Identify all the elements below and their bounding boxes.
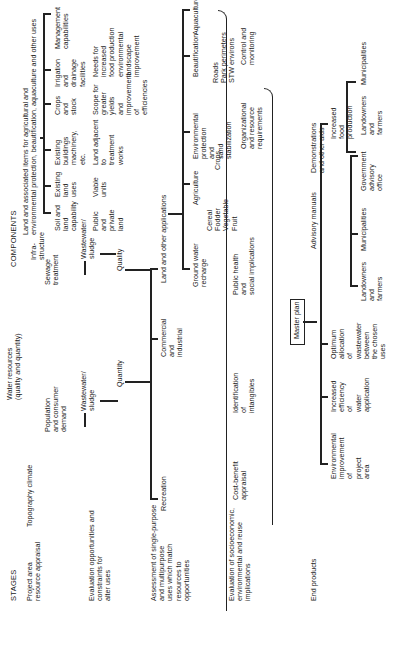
- agriculture: Agriculture: [192, 171, 200, 205]
- sub-viable-units: Viable units: [92, 177, 108, 197]
- components-bracket-line: [43, 14, 45, 214]
- stage-end-products: End products: [310, 559, 318, 601]
- tick: [43, 186, 51, 188]
- components-header: COMPONENTS: [10, 210, 18, 267]
- tick: [350, 234, 358, 236]
- public-health: Public health and social implications: [232, 237, 257, 295]
- tick: [43, 150, 51, 152]
- cost-benefit-appraisal: Cost-benefit appraisal: [232, 461, 248, 500]
- optimum-allocation: Optimum allocation of wastewater between…: [330, 323, 387, 359]
- tick: [320, 464, 328, 466]
- tick: [43, 104, 51, 106]
- quantity-label: Quantity: [116, 360, 124, 387]
- stage-project-appraisal: Project area resource appraisal: [26, 542, 42, 601]
- stages-header: STAGES: [10, 569, 18, 601]
- component-existing-land: Existing land uses: [54, 172, 79, 197]
- advisory-spine: [350, 157, 352, 287]
- connector: [100, 401, 116, 403]
- increased-food-production: Increased food production: [330, 105, 355, 139]
- component-existing-buildings: Existing buildings machinery, etc.: [54, 130, 87, 165]
- component-irrigation: Irrigation and drainage facilities: [54, 59, 87, 87]
- commercial-industrial: Commercial and industrial: [160, 319, 185, 357]
- component-crops-stock: Crops and stock: [54, 96, 79, 115]
- connector: [84, 261, 86, 275]
- tick: [320, 344, 328, 346]
- water-resources: Water resources (quality and quantity): [6, 333, 22, 400]
- end-products-spine: [320, 125, 322, 465]
- tick: [320, 397, 328, 399]
- applications-spine: [182, 10, 184, 270]
- aquaculture: Aquaculture: [192, 0, 200, 35]
- wastewater-sludge-left: Wastewater/ sludge: [80, 371, 96, 411]
- recreation: Recreation: [160, 476, 168, 511]
- increased-efficiency: Increased efficiency of water applicatio…: [330, 378, 371, 412]
- socio-brace: [264, 88, 273, 525]
- tick: [350, 156, 358, 158]
- organizational-requirements: Organizational and resource requirements: [240, 103, 265, 149]
- env-improvement: Environmental improvement of project are…: [330, 433, 371, 479]
- stage-socioeconomic: Evaluation of socioeconomic, environment…: [228, 508, 253, 601]
- land-other-applications: Land and other applications: [160, 195, 168, 283]
- connector: [125, 382, 151, 384]
- tick: [43, 213, 51, 215]
- connector: [125, 270, 151, 272]
- tick: [150, 269, 158, 271]
- wastewater-sludge-right: Wastewater/ sludge: [80, 219, 96, 259]
- tick: [150, 499, 158, 501]
- tick: [182, 132, 190, 134]
- assessment-brace: [218, 10, 227, 611]
- connector: [100, 254, 116, 256]
- tick: [43, 14, 51, 16]
- component-management: Management capabilities: [54, 7, 70, 49]
- demo-spine: [346, 83, 348, 153]
- beautification: Beautification: [192, 34, 200, 77]
- tick: [346, 82, 356, 84]
- tick: [182, 184, 190, 186]
- sewage-treatment: Sewage treatment: [44, 255, 60, 285]
- advisory-manuals: Advisory manuals: [310, 192, 318, 249]
- advisory-landowners: Landowners and farmers: [360, 262, 385, 301]
- tick: [350, 286, 358, 288]
- connector: [84, 413, 86, 427]
- stage-evaluation-opportunities: Evaluation opportunities and constraints…: [88, 510, 113, 601]
- advisory-municipalities: Municipalities: [360, 208, 368, 251]
- sub-public-private: Public and private land: [92, 209, 125, 231]
- identification-intangibles: Identification of intangibles: [232, 373, 257, 413]
- sub-land-adjacent: Land adjacent to treatment works: [92, 120, 125, 165]
- tick: [182, 10, 190, 12]
- connector: [303, 322, 317, 324]
- groundwater-recharge: Ground water recharge: [192, 243, 208, 287]
- land-associated-items: Land and associated items for agricultur…: [22, 19, 38, 235]
- advisory-government: Government advisory office: [360, 151, 385, 191]
- control-monitoring: Control and monitoring: [240, 28, 256, 65]
- population-demand: Population and consumer demand: [44, 386, 69, 432]
- connector: [168, 214, 182, 216]
- tick: [43, 70, 51, 72]
- tick: [182, 56, 190, 58]
- tick: [346, 152, 356, 154]
- demo-municipalities: Municipalities: [360, 42, 368, 85]
- tick: [182, 269, 190, 271]
- master-plan-label: Master plan: [293, 301, 301, 339]
- assessment-spine: [150, 270, 152, 500]
- sub-scope-yields: Scope for greater yields and improvement…: [92, 73, 149, 115]
- quality-label: Quality: [116, 249, 124, 271]
- infrastructure: Infra- structure: [30, 232, 46, 260]
- component-soil: Soil and land capability: [54, 201, 79, 231]
- stage-assessment: Assessment of single-purpose and multipu…: [150, 505, 191, 601]
- demonstrations: Demonstrations and other aids: [310, 123, 326, 173]
- demo-landowners: Landowners and farmers: [360, 96, 385, 135]
- topography-climate: Topography climate: [26, 465, 34, 527]
- sub-needs: Needs for increased food production envi…: [92, 27, 141, 77]
- tick: [150, 339, 158, 341]
- components-bracket-stem: [40, 138, 44, 140]
- wastewater-reuse-planning-diagram: STAGES COMPONENTS Project area resource …: [0, 0, 396, 645]
